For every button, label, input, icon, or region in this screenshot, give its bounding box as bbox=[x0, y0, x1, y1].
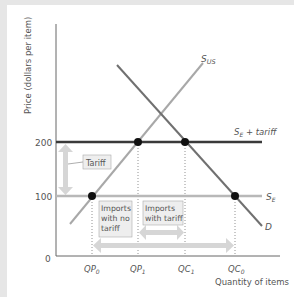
y-tick-100: 100 bbox=[35, 192, 52, 202]
y-tick-200: 200 bbox=[35, 138, 52, 148]
imports-no-tariff-line3: tariff bbox=[101, 224, 120, 233]
x-tick-qc1: QC1 bbox=[178, 264, 194, 275]
se-tariff-label: SE + tariff bbox=[234, 127, 277, 138]
x-tick-qp0: QP0 bbox=[84, 264, 100, 275]
y-tick-0: 0 bbox=[45, 254, 51, 264]
tariff-diagram: Price (dollars per item) 200 100 0 Tarif… bbox=[0, 0, 294, 297]
x-tick-qp1: QP1 bbox=[130, 264, 146, 275]
tariff-label: Tariff bbox=[85, 159, 106, 168]
tariff-leader bbox=[68, 162, 83, 164]
se-label: SE bbox=[266, 192, 276, 203]
point-qc1 bbox=[181, 138, 189, 146]
imports-no-tariff-line1: Imports bbox=[101, 204, 131, 213]
x-tick-qc0: QC0 bbox=[228, 264, 245, 275]
imports-tariff-line2: with tariff bbox=[145, 214, 183, 223]
point-qp1 bbox=[134, 138, 142, 146]
demand-label: D bbox=[265, 222, 272, 232]
point-qc0 bbox=[231, 192, 239, 200]
imports-tariff-line1: Imports bbox=[145, 204, 175, 213]
tariff-arrow bbox=[58, 144, 73, 195]
point-qp0 bbox=[88, 192, 96, 200]
imports-no-tariff-arrow bbox=[93, 238, 234, 253]
imports-with-tariff-arrow bbox=[139, 225, 184, 240]
imports-no-tariff-line2: with no bbox=[101, 214, 130, 223]
y-axis-label: Price (dollars per item) bbox=[23, 17, 33, 114]
x-axis-label: Quantity of items bbox=[215, 277, 290, 287]
